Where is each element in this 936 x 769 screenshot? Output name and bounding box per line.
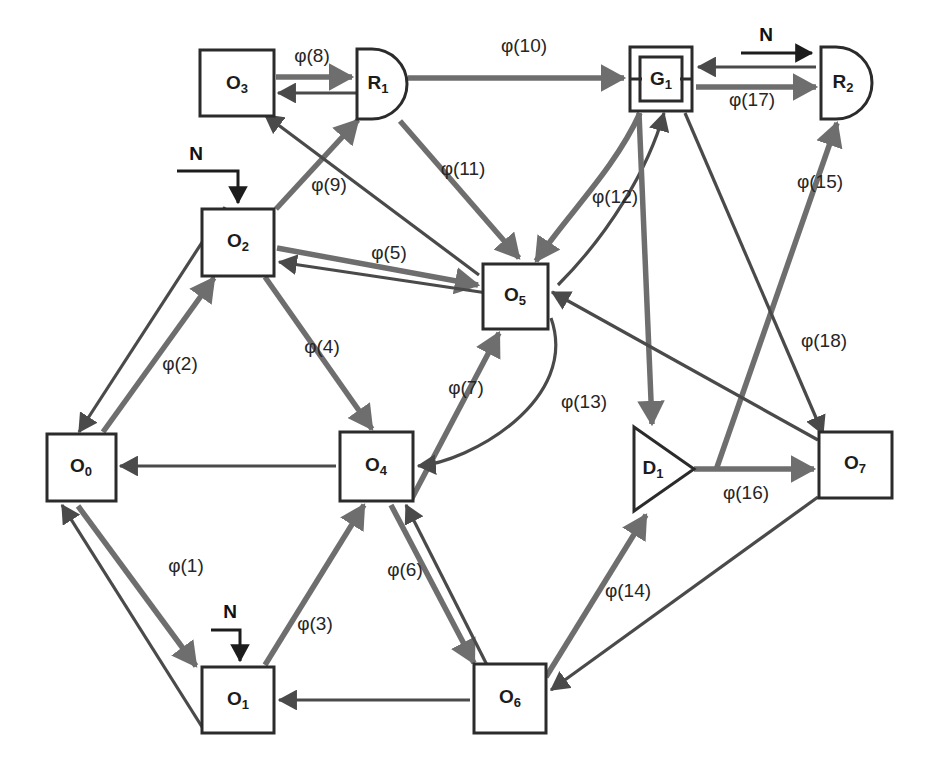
n-input-arrow-o1 [211, 630, 240, 661]
n-input-label-o2: N [189, 143, 203, 164]
edge-label-phi18: φ(18) [801, 330, 847, 351]
node-O0[interactable]: O0 [47, 434, 116, 501]
edge-phi1-in [62, 505, 204, 730]
node-D1[interactable]: D1 [634, 427, 694, 511]
edge-label-phi11: φ(11) [441, 158, 486, 179]
edge-phi18 [685, 113, 823, 434]
node-O7[interactable]: O7 [819, 432, 892, 498]
edge-label-phi1: φ(1) [168, 555, 204, 576]
edge-label-phi14: φ(14) [605, 580, 651, 601]
node-O5-base: O [504, 284, 519, 305]
edge-label-phi12: φ(12) [592, 186, 638, 207]
edge-label-phi17: φ(17) [729, 89, 775, 110]
node-O2-sub: 2 [242, 239, 249, 254]
edge-label-phi16: φ(16) [723, 482, 769, 503]
node-O3[interactable]: O3 [200, 50, 274, 116]
node-O4-sub: 4 [380, 463, 388, 478]
edge-label-phi5: φ(5) [371, 242, 407, 263]
edge-label-phi15: φ(15) [797, 171, 843, 192]
edge-label-phi2: φ(2) [162, 353, 198, 374]
edge-label-layer: φ(1) φ(2) φ(3) φ(4) φ(5) φ(6) φ(7) φ(8) … [162, 35, 847, 634]
node-O0-base: O [70, 455, 85, 476]
node-D1-base: D [643, 457, 657, 478]
node-O1[interactable]: O1 [202, 667, 274, 733]
node-R1-sub: 1 [381, 81, 388, 96]
node-O6[interactable]: O6 [474, 664, 546, 733]
n-input-label-o1: N [223, 601, 237, 622]
node-R1-base: R [368, 72, 382, 93]
edge-phi1-out [78, 506, 196, 666]
edge-label-phi8: φ(8) [294, 45, 330, 66]
node-O6-base: O [499, 686, 514, 707]
node-G1-sub: 1 [665, 77, 672, 92]
edge-label-phi9: φ(9) [311, 174, 347, 195]
edge-label-phi10: φ(10) [501, 35, 547, 56]
edge-phi3 [265, 505, 364, 665]
node-O3-sub: 3 [241, 81, 248, 96]
edge-phi6-out [391, 505, 474, 663]
node-R2-sub: 2 [846, 80, 853, 95]
edge-phi11 [400, 121, 519, 258]
edge-label-phi7: φ(7) [448, 377, 484, 398]
process-interaction-graph: N N N O3 R1 G1 [0, 0, 936, 769]
edge-phi7 [411, 333, 499, 500]
node-R2[interactable]: R2 [821, 47, 872, 119]
node-O2-base: O [227, 230, 242, 251]
node-O2[interactable]: O2 [202, 209, 274, 276]
node-O4-base: O [365, 454, 380, 475]
edge-label-phi3: φ(3) [297, 613, 333, 634]
node-O3-base: O [226, 72, 241, 93]
n-input-label-r2: N [759, 24, 773, 45]
node-O5[interactable]: O5 [483, 264, 548, 329]
edge-o7-to-o5 [552, 292, 818, 440]
edge-o7-to-o6 [551, 497, 818, 690]
node-O6-sub: 6 [514, 695, 521, 710]
node-O7-sub: 7 [859, 461, 866, 476]
diagram-canvas: N N N O3 R1 G1 [0, 0, 936, 769]
node-O0-sub: 0 [85, 464, 92, 479]
node-O7-base: O [844, 452, 859, 473]
node-R1[interactable]: R1 [357, 49, 407, 119]
node-O1-sub: 1 [242, 697, 249, 712]
node-O4[interactable]: O4 [340, 432, 413, 501]
edge-label-phi6: φ(6) [387, 559, 423, 580]
edge-label-phi13: φ(13) [561, 391, 607, 412]
node-R2-base: R [833, 71, 847, 92]
node-O1-base: O [227, 688, 242, 709]
n-input-arrow-o2 [177, 171, 238, 203]
node-D1-sub: 1 [656, 466, 663, 481]
node-G1-base: G [650, 68, 665, 89]
node-O5-sub: 5 [519, 293, 526, 308]
edge-phi6-in [406, 505, 487, 665]
node-G1[interactable]: G1 [630, 47, 692, 111]
edge-label-phi4: φ(4) [304, 336, 340, 357]
